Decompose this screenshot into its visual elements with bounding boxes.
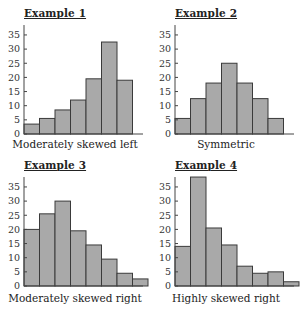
histogram-example-4: Example 4 05101520253035 Highly skewed r… xyxy=(151,152,301,308)
chart-plot: 05101520253035 xyxy=(0,0,150,156)
histogram-bar xyxy=(268,272,284,286)
histogram-bar xyxy=(102,42,118,134)
histogram-bar xyxy=(237,83,253,134)
chart-caption: Moderately skewed right xyxy=(0,292,150,304)
y-tick-label: 30 xyxy=(8,195,20,206)
y-tick-label: 35 xyxy=(159,181,171,192)
y-tick-label: 20 xyxy=(159,224,171,235)
y-tick-label: 5 xyxy=(165,266,171,277)
histogram-bar xyxy=(102,259,118,286)
histogram-bar xyxy=(175,118,191,134)
histogram-bar xyxy=(175,246,191,286)
y-tick-label: 15 xyxy=(159,238,171,249)
histogram-bar xyxy=(133,279,149,286)
histogram-bar xyxy=(86,79,102,134)
histogram-bar xyxy=(86,245,102,286)
histogram-example-2: Example 2 05101520253035 Symmetric xyxy=(151,0,301,156)
histogram-bar xyxy=(191,177,207,286)
histogram-bar xyxy=(206,83,222,134)
chart-caption: Symmetric xyxy=(151,138,301,150)
y-tick-label: 15 xyxy=(159,86,171,97)
y-tick-label: 25 xyxy=(159,210,171,221)
histogram-bar xyxy=(71,231,87,286)
histogram-bar xyxy=(253,273,269,286)
histogram-bar xyxy=(40,214,56,286)
histogram-bar xyxy=(253,99,269,134)
chart-plot: 05101520253035 xyxy=(151,0,301,156)
y-tick-label: 10 xyxy=(159,252,171,263)
y-tick-label: 0 xyxy=(165,280,171,291)
y-tick-label: 20 xyxy=(8,224,20,235)
y-tick-label: 30 xyxy=(159,43,171,54)
y-tick-label: 25 xyxy=(8,210,20,221)
chart-plot: 05101520253035 xyxy=(151,152,301,308)
histogram-bar xyxy=(268,118,284,134)
histogram-bar xyxy=(191,99,207,134)
y-tick-label: 35 xyxy=(8,181,20,192)
histogram-bar xyxy=(71,100,87,134)
histogram-bar xyxy=(206,228,222,286)
chart-plot: 05101520253035 xyxy=(0,152,150,308)
histogram-example-1: Example 1 05101520253035 Moderately skew… xyxy=(0,0,150,156)
y-tick-label: 10 xyxy=(8,252,20,263)
y-tick-label: 15 xyxy=(8,86,20,97)
y-tick-label: 5 xyxy=(14,266,20,277)
histogram-bar xyxy=(237,266,253,286)
histogram-bar xyxy=(284,282,300,286)
chart-caption: Highly skewed right xyxy=(151,292,301,304)
y-tick-label: 0 xyxy=(14,280,20,291)
y-tick-label: 35 xyxy=(159,29,171,40)
histogram-bar xyxy=(117,80,133,134)
y-tick-label: 30 xyxy=(8,43,20,54)
y-tick-label: 35 xyxy=(8,29,20,40)
y-tick-label: 25 xyxy=(159,58,171,69)
histogram-bar xyxy=(40,118,56,134)
histogram-bar xyxy=(55,110,71,134)
histogram-bar xyxy=(55,201,71,286)
histogram-bar xyxy=(222,63,238,134)
histogram-example-3: Example 3 05101520253035 Moderately skew… xyxy=(0,152,150,308)
histogram-bar xyxy=(24,124,40,134)
y-tick-label: 5 xyxy=(165,114,171,125)
histogram-bar xyxy=(117,273,133,286)
y-tick-label: 30 xyxy=(159,195,171,206)
chart-caption: Moderately skewed left xyxy=(0,138,150,150)
histogram-bar xyxy=(222,245,238,286)
y-tick-label: 20 xyxy=(159,72,171,83)
y-tick-label: 15 xyxy=(8,238,20,249)
y-tick-label: 20 xyxy=(8,72,20,83)
y-tick-label: 10 xyxy=(8,100,20,111)
y-tick-label: 10 xyxy=(159,100,171,111)
y-tick-label: 25 xyxy=(8,58,20,69)
y-tick-label: 5 xyxy=(14,114,20,125)
